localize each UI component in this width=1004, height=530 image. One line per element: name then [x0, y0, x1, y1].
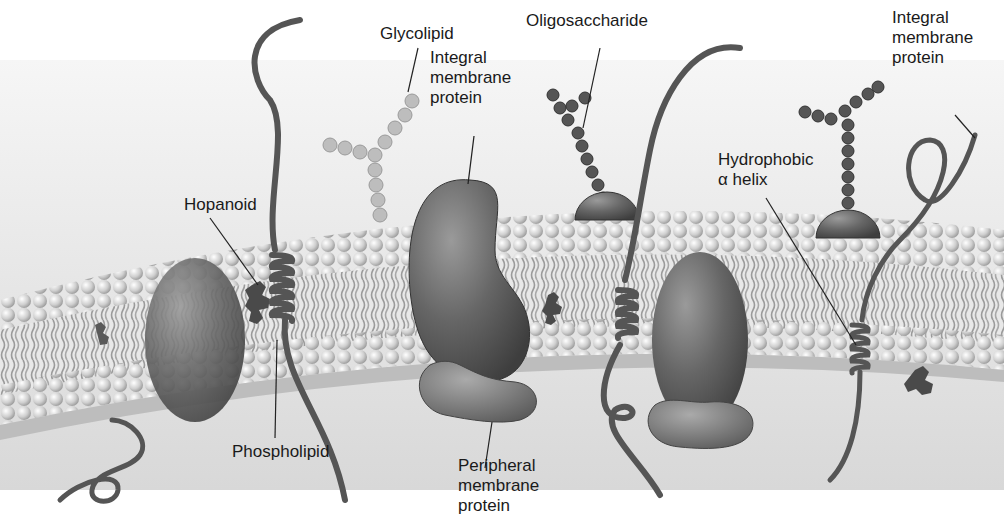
label-integral-membrane-protein-right: Integral membrane protein	[892, 8, 973, 68]
label-oligosaccharide: Oligosaccharide	[526, 11, 648, 31]
left-integral-protein	[145, 258, 245, 422]
label-hydrophobic-alpha-helix: Hydrophobic α helix	[718, 150, 813, 190]
membrane-diagram: Glycolipid Oligosaccharide Integral memb…	[0, 0, 1004, 530]
label-integral-membrane-protein-center: Integral membrane protein	[430, 48, 511, 108]
label-peripheral-membrane-protein: Peripheral membrane protein	[458, 456, 539, 516]
label-glycolipid: Glycolipid	[380, 24, 454, 44]
label-hopanoid: Hopanoid	[184, 195, 257, 215]
label-phospholipid: Phospholipid	[232, 442, 329, 462]
